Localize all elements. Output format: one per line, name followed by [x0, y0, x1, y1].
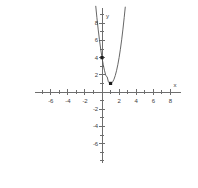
y-axis-tick-label: 8 [88, 20, 98, 27]
x-axis-tick-label: 6 [152, 98, 155, 105]
axis-ticks-group [42, 15, 170, 161]
x-axis-tick-label: 8 [169, 98, 172, 105]
x-axis-tick-label: 4 [135, 98, 138, 105]
y-axis-tick-label: 2 [88, 71, 98, 78]
axes-group [35, 8, 180, 163]
data-point-marker [100, 56, 103, 59]
data-point-marker [109, 82, 112, 85]
x-axis-tick-label: -6 [48, 98, 53, 105]
parabola-curve [96, 6, 126, 83]
y-axis-tick-label: 6 [88, 37, 98, 44]
y-axis-label: y [106, 13, 109, 20]
x-axis-label: x [173, 82, 176, 89]
x-axis-tick-label: -4 [65, 98, 70, 105]
graph-canvas: -6-4-224688642-2-4-6 x y [0, 0, 198, 188]
parabola-curve-group [96, 6, 126, 83]
x-axis-tick-label: -2 [82, 98, 87, 105]
coordinate-plane-svg [0, 0, 198, 188]
y-axis-tick-label: 4 [88, 54, 98, 61]
x-axis-tick-label: 2 [118, 98, 121, 105]
y-axis-tick-label: -2 [88, 106, 98, 113]
y-axis-tick-label: -6 [88, 140, 98, 147]
y-axis-tick-label: -4 [88, 123, 98, 130]
